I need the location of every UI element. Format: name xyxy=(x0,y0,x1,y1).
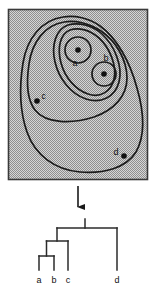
dendrogram-label-a: a xyxy=(36,275,41,285)
map-point-c xyxy=(34,98,40,104)
map-label-b: b xyxy=(103,53,108,63)
dendrogram-label-b: b xyxy=(51,275,56,285)
contour-map-panel: a b c d xyxy=(9,10,148,180)
figure-svg: a b c d a b xyxy=(0,0,157,292)
map-point-a xyxy=(75,47,81,53)
map-label-a: a xyxy=(72,58,77,68)
dendrogram-label-d: d xyxy=(114,275,119,285)
map-label-d: d xyxy=(113,147,118,157)
map-point-d xyxy=(121,153,127,159)
dendrogram-label-c: c xyxy=(66,275,71,285)
map-point-b xyxy=(101,71,107,77)
figure-container: a b c d a b xyxy=(0,0,157,292)
